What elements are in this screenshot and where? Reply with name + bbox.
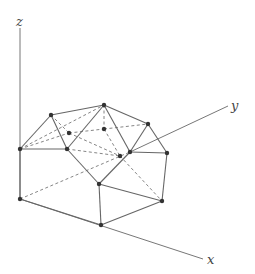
vertex-dot: [18, 197, 22, 201]
z-axis-label: z: [15, 14, 23, 29]
edge: [99, 184, 162, 201]
hidden-edges: [20, 105, 162, 201]
vertex-dot: [49, 113, 53, 117]
vertex-dot: [18, 147, 22, 151]
vertex-dot: [102, 103, 106, 107]
vertex-dot: [97, 182, 101, 186]
hidden-edge: [67, 149, 120, 156]
vertex-dot: [99, 223, 103, 227]
edge: [99, 184, 101, 225]
edge: [101, 201, 162, 225]
edge: [20, 199, 101, 225]
edge: [99, 152, 130, 184]
edge: [51, 105, 104, 115]
vertex-dot: [146, 122, 150, 126]
hidden-edge: [51, 115, 69, 133]
vertex-dot: [67, 131, 71, 135]
hidden-edge: [120, 156, 162, 201]
y-axis-hidden: [20, 152, 130, 199]
edge: [162, 153, 167, 201]
vertex-dot: [160, 199, 164, 203]
edge: [130, 152, 167, 153]
edge: [67, 149, 99, 184]
vertex-dot: [102, 127, 106, 131]
hidden-edge: [104, 124, 148, 129]
vertex-dot: [65, 147, 69, 151]
vertices: [18, 103, 169, 227]
edge: [148, 124, 167, 153]
edge: [104, 105, 148, 124]
polyhedron-diagram: x y z: [0, 0, 255, 274]
hidden-edge: [20, 105, 104, 149]
y-axis-label: y: [230, 98, 239, 113]
axes: [20, 28, 228, 259]
x-axis-label: x: [207, 252, 215, 267]
edge: [67, 105, 104, 149]
hidden-edge: [69, 129, 104, 133]
vertex-dot: [128, 150, 132, 154]
edge: [20, 115, 51, 149]
visible-edges: [20, 105, 167, 225]
axis-labels: x y z: [15, 14, 239, 267]
vertex-dot: [118, 154, 122, 158]
edge: [51, 115, 67, 149]
vertex-dot: [165, 151, 169, 155]
edge: [104, 105, 130, 152]
